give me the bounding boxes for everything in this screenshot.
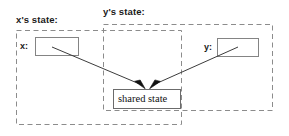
variable-label-y: y: — [204, 43, 212, 52]
diagram-canvas: x's state: y's state: x: y: shared state — [0, 0, 289, 136]
variable-label-x: x: — [20, 42, 28, 51]
edge-line-x-to-shared — [52, 47, 142, 85]
variable-box-x — [36, 38, 79, 56]
node-label-shared-state: shared state — [118, 94, 167, 105]
edge-line-y-to-shared — [153, 47, 238, 85]
group-label-x-state: x's state: — [16, 15, 58, 25]
arrowhead-x-to-shared — [135, 80, 146, 89]
group-label-y-state: y's state: — [103, 7, 145, 17]
arrowhead-y-to-shared — [150, 80, 161, 89]
